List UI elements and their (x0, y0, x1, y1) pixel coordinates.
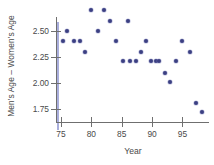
data-point (134, 59, 138, 63)
data-point (89, 8, 93, 12)
data-point (149, 59, 153, 63)
data-point (180, 39, 184, 43)
data-point (114, 39, 118, 43)
data-point (200, 110, 204, 114)
data-point (121, 59, 125, 63)
data-point (96, 29, 100, 33)
data-point (72, 39, 76, 43)
data-point (78, 39, 82, 43)
data-point (157, 59, 161, 63)
data-point (163, 71, 167, 75)
data-point (144, 39, 148, 43)
data-point (188, 50, 192, 54)
data-point (126, 19, 130, 23)
data-point (65, 29, 69, 33)
data-point (128, 59, 132, 63)
data-point (102, 8, 106, 12)
data-point (194, 101, 198, 105)
data-point (83, 50, 87, 54)
x-axis-label: Year (58, 146, 208, 156)
plot-area (0, 0, 214, 165)
data-point (61, 39, 65, 43)
data-point (174, 59, 178, 63)
data-point (168, 80, 172, 84)
data-point (108, 19, 112, 23)
data-point (139, 50, 143, 54)
scatter-plot-figure: Men's Age – Women's Age 2.502.252.001.75… (0, 0, 214, 165)
